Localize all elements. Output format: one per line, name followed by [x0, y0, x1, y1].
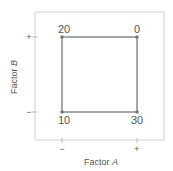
plot-frame: [35, 12, 164, 140]
point-a-minus-b-plus: [60, 35, 64, 39]
y-tick-plus: +: [26, 32, 31, 42]
value-a-minus-b-plus: 20: [58, 23, 70, 35]
value-a-plus-b-minus: 30: [131, 114, 143, 126]
y-tick-minus: −: [26, 107, 31, 117]
point-a-plus-b-plus: [135, 35, 139, 39]
y-axis-label: Factor B: [9, 60, 19, 94]
factorial-diagram: + − − + 20 0 10 30 Factor A Factor B: [0, 0, 173, 171]
value-a-minus-b-minus: 10: [58, 114, 70, 126]
x-tick-plus: +: [134, 144, 139, 154]
value-a-plus-b-plus: 0: [134, 23, 140, 35]
design-square: [62, 37, 137, 112]
x-axis-label: Factor A: [84, 157, 118, 167]
x-tick-minus: −: [59, 144, 64, 154]
